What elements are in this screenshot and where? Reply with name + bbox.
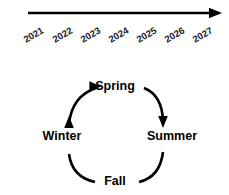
cycle-node-fall: Fall	[104, 174, 126, 188]
cycle-node-spring: Spring	[95, 79, 135, 93]
cycle-node-winter: Winter	[43, 129, 82, 143]
timeline-and-cycle-figure: 2021 2022 2023 2024 2025 2026 2027	[0, 0, 229, 195]
cycle-node-summer: Summer	[147, 129, 197, 143]
